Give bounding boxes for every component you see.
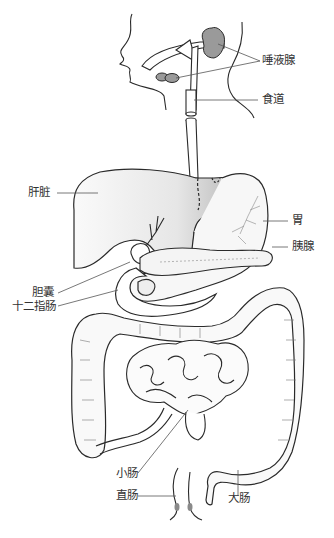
label-stomach: 胃	[292, 215, 303, 227]
rectum	[170, 468, 202, 520]
label-small-intestine: 小肠	[116, 468, 138, 480]
label-liver: 肝脏	[28, 187, 50, 199]
parotid-gland	[202, 27, 224, 58]
label-gallbladder: 胆囊	[32, 287, 54, 299]
label-salivary-glands: 唾液腺	[262, 55, 295, 67]
digestive-system-diagram	[0, 0, 334, 538]
esophagus	[186, 90, 198, 178]
label-duodenum: 十二指肠	[12, 301, 56, 313]
label-esophagus: 食道	[262, 94, 284, 106]
label-rectum: 直肠	[116, 490, 138, 502]
small-intestine	[96, 340, 248, 454]
label-pancreas: 胰腺	[292, 241, 314, 253]
label-large-intestine: 大肠	[228, 493, 250, 505]
